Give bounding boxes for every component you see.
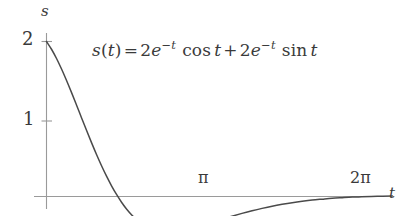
y-axis-label: s bbox=[41, 4, 49, 19]
x-tick-label-pi: π bbox=[198, 170, 209, 186]
y-tick-label-2: 2 bbox=[22, 30, 33, 48]
equation-annotation: s(t)=2e−tcost+2e−tsint bbox=[92, 42, 318, 59]
equation-term2-coefficient: 2 bbox=[240, 40, 251, 60]
equation-lhs-variable: s bbox=[92, 40, 101, 60]
equation-term2-function: sin bbox=[279, 40, 308, 60]
equation-lhs-argument: t bbox=[108, 40, 115, 60]
equation-term2-base: e bbox=[251, 40, 261, 60]
equation-term1-coefficient: 2 bbox=[140, 40, 151, 60]
equation-term2-function-argument: t bbox=[310, 40, 317, 60]
equation-term1-base: e bbox=[151, 40, 161, 60]
equation-equals-sign: = bbox=[122, 40, 140, 60]
equation-term2-exponent: −t bbox=[261, 38, 276, 52]
equation-plus-sign: + bbox=[221, 40, 239, 60]
function-curve bbox=[47, 42, 393, 217]
equation-lhs-open-paren: ( bbox=[101, 40, 108, 60]
equation-lhs-close-paren: ) bbox=[115, 40, 122, 60]
graph-figure: s t 2 1 π 2π s(t)=2e−tcost+2e−tsint bbox=[0, 0, 415, 216]
y-tick-label-1: 1 bbox=[23, 110, 34, 128]
equation-term1-function: cos bbox=[179, 40, 211, 60]
x-tick-label-two-pi: 2π bbox=[350, 170, 371, 186]
x-axis-label: t bbox=[389, 186, 395, 201]
equation-term1-exponent: −t bbox=[161, 38, 176, 52]
